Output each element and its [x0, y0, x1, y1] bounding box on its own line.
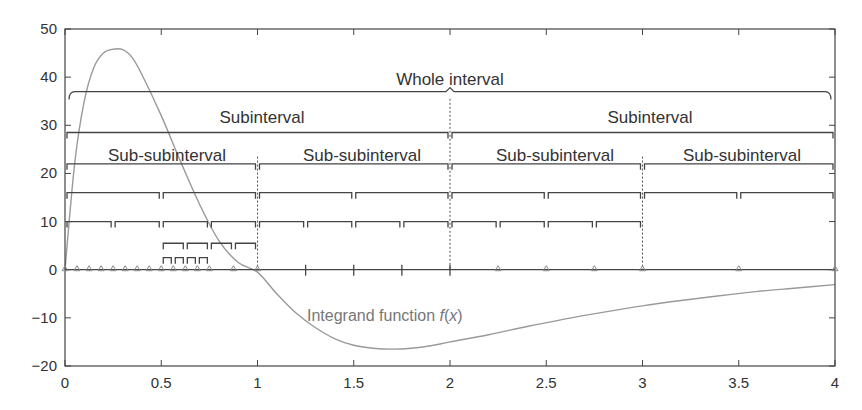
level-10-bracket: [596, 222, 640, 228]
level-10-bracket: [211, 222, 255, 228]
x-tick-label: 3: [638, 374, 646, 391]
level-16-bracket: [452, 193, 544, 199]
integrand-label-close: ): [457, 307, 462, 324]
x-tick-label: 3.5: [728, 374, 749, 391]
level-16-bracket: [548, 193, 640, 199]
level-16-bracket: [741, 193, 833, 199]
x-tick-label: 0: [61, 374, 69, 391]
sub-subinterval-label-2: Sub-subinterval: [303, 146, 421, 165]
chart-canvas: 00.511.522.533.5450403020100−10−20 Whole…: [0, 0, 862, 410]
whole-interval-label: Whole interval: [396, 70, 504, 89]
level-10-bracket: [356, 222, 400, 228]
level-10-bracket: [260, 222, 304, 228]
integrand-label: Integrand function f(x): [307, 307, 463, 324]
y-tick-label: 40: [40, 68, 57, 85]
level-16-bracket: [163, 193, 255, 199]
x-tick-label: 2: [446, 374, 454, 391]
level-2-bracket: [175, 258, 183, 264]
level-10-bracket: [163, 222, 207, 228]
level-10-bracket: [404, 222, 448, 228]
subinterval-bracket: [452, 133, 833, 139]
x-tick-label: 0.5: [151, 374, 172, 391]
subinterval-bracket: [67, 133, 448, 139]
level-10-bracket: [308, 222, 352, 228]
level-16-bracket: [356, 193, 448, 199]
level-16-bracket: [67, 193, 159, 199]
level-5-bracket: [187, 243, 207, 249]
y-tick-label: −20: [32, 357, 57, 374]
x-tick-label: 2.5: [536, 374, 557, 391]
level-10-bracket: [500, 222, 544, 228]
y-tick-label: 20: [40, 164, 57, 181]
interval-brackets: [67, 88, 833, 270]
y-tick-label: −10: [32, 309, 57, 326]
y-tick-label: 0: [49, 261, 57, 278]
sub-subinterval-label-4: Sub-subinterval: [683, 146, 801, 165]
y-tick-label: 50: [40, 20, 57, 37]
level-5-bracket: [163, 243, 183, 249]
level-10-bracket: [115, 222, 159, 228]
x-tick-label: 4: [831, 374, 839, 391]
level-10-bracket: [67, 222, 111, 228]
level-2-bracket: [163, 258, 171, 264]
level-16-bracket: [260, 193, 352, 199]
sub-subinterval-label-3: Sub-subinterval: [496, 146, 614, 165]
level-2-bracket: [199, 258, 207, 264]
x-tick-label: 1.5: [343, 374, 364, 391]
subinterval-label-right: Subinterval: [607, 108, 692, 127]
y-tick-label: 30: [40, 116, 57, 133]
sub-subinterval-label-1: Sub-subinterval: [108, 146, 226, 165]
level-5-bracket: [235, 243, 255, 249]
subinterval-label-left: Subinterval: [219, 108, 304, 127]
level-16-bracket: [645, 193, 737, 199]
level-2-bracket: [187, 258, 195, 264]
y-tick-label: 10: [40, 213, 57, 230]
level-10-bracket: [548, 222, 592, 228]
whole-interval-brace: [69, 88, 831, 100]
x-tick-label: 1: [253, 374, 261, 391]
level-10-bracket: [452, 222, 496, 228]
integrand-label-prefix: Integrand function: [307, 307, 440, 324]
